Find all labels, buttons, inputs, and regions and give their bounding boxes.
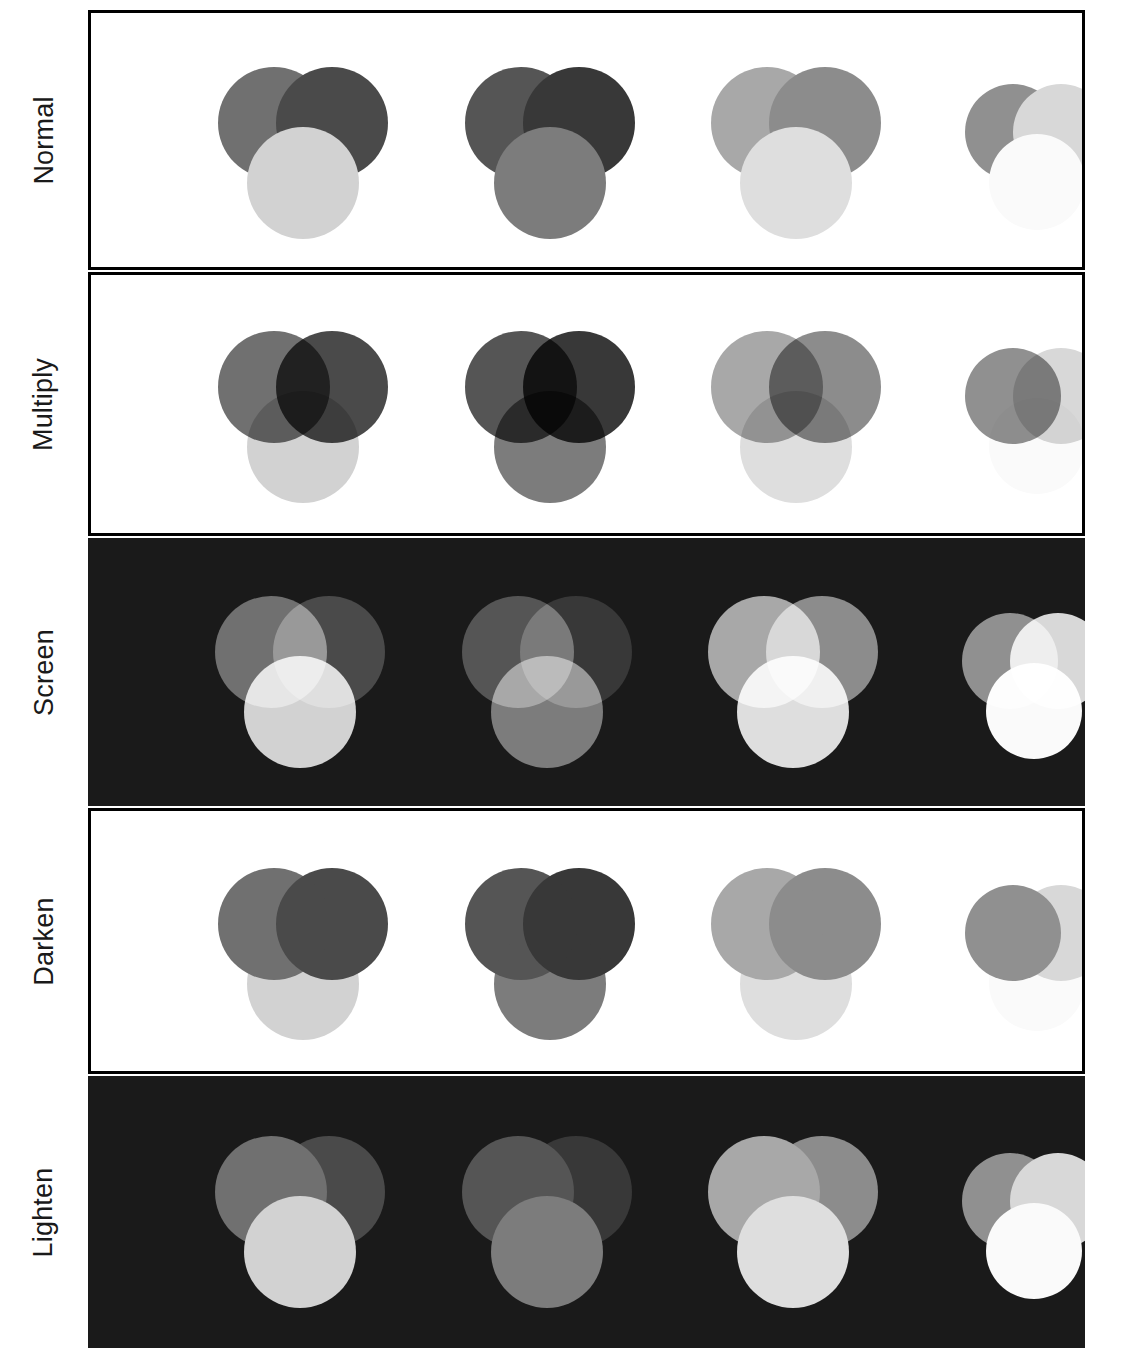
circle-bottom xyxy=(737,1196,849,1308)
circle-bottom xyxy=(494,928,606,1040)
row-label-darken: Darken xyxy=(0,808,88,1074)
row-label-lighten: Lighten xyxy=(0,1076,88,1348)
circle-group-3-screen xyxy=(708,596,878,768)
blend-row-multiply xyxy=(88,272,1085,536)
row-label-screen: Screen xyxy=(0,538,88,806)
circle-bottom xyxy=(244,656,356,768)
row-label-text: Darken xyxy=(29,897,60,985)
circle-group-2-normal xyxy=(465,67,635,239)
row-label-text: Screen xyxy=(29,629,60,716)
circle-bottom xyxy=(247,127,359,239)
circle-bottom xyxy=(247,391,359,503)
circle-bottom xyxy=(740,928,852,1040)
row-label-normal: Normal xyxy=(0,10,88,270)
circle-group-1-lighten xyxy=(215,1136,385,1308)
circle-group-2-darken xyxy=(465,868,635,1040)
row-label-multiply: Multiply xyxy=(0,272,88,536)
circle-group-3-normal xyxy=(711,67,881,239)
circle-group-3-lighten xyxy=(708,1136,878,1308)
circle-group-3-multiply xyxy=(711,331,881,503)
row-label-text: Normal xyxy=(29,96,60,184)
row-label-text: Multiply xyxy=(29,357,60,450)
circle-group-4-lighten xyxy=(962,1153,1085,1299)
circle-bottom xyxy=(494,127,606,239)
circle-bottom xyxy=(989,398,1085,494)
circle-bottom xyxy=(244,1196,356,1308)
circle-bottom xyxy=(491,656,603,768)
circle-bottom xyxy=(986,1203,1082,1299)
circle-group-3-darken xyxy=(711,868,881,1040)
circle-group-1-normal xyxy=(218,67,388,239)
circle-bottom xyxy=(989,935,1085,1031)
blend-mode-figure: NormalMultiplyScreenDarkenLighten xyxy=(0,0,1133,1358)
circle-group-4-darken xyxy=(965,885,1085,1031)
circle-bottom xyxy=(740,391,852,503)
blend-row-normal xyxy=(88,10,1085,270)
circle-bottom xyxy=(737,656,849,768)
circle-bottom xyxy=(986,663,1082,759)
blend-row-darken xyxy=(88,808,1085,1074)
circle-group-2-lighten xyxy=(462,1136,632,1308)
circle-group-2-screen xyxy=(462,596,632,768)
circle-group-4-multiply xyxy=(965,348,1085,494)
circle-group-1-multiply xyxy=(218,331,388,503)
circle-group-2-multiply xyxy=(465,331,635,503)
circle-group-1-darken xyxy=(218,868,388,1040)
circle-bottom xyxy=(491,1196,603,1308)
circle-group-4-normal xyxy=(965,84,1085,230)
circle-bottom xyxy=(740,127,852,239)
circle-group-1-screen xyxy=(215,596,385,768)
blend-row-screen xyxy=(88,538,1085,806)
blend-row-lighten xyxy=(88,1076,1085,1348)
row-label-text: Lighten xyxy=(29,1167,60,1257)
circle-bottom xyxy=(989,134,1085,230)
circle-group-4-screen xyxy=(962,613,1085,759)
circle-bottom xyxy=(247,928,359,1040)
circle-bottom xyxy=(494,391,606,503)
